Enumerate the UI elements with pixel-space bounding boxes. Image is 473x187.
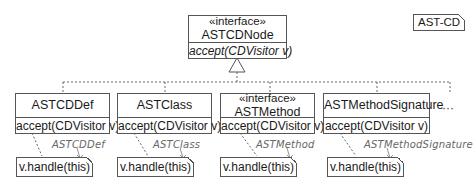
class-astclass[interactable]: ASTClass accept(CDVisitor v) [117,93,212,134]
class-astcdnode[interactable]: «interface» ASTCDNode accept(CDVisitor v… [188,15,287,59]
stereotype-label: «interface» [189,15,286,28]
note-text: v.handle(this) [19,160,90,174]
note-astcddef: v.handle(this) [16,157,93,177]
note-tag: ASTMethod [256,139,315,150]
note-astmethodsignature: v.handle(this) [327,157,404,177]
class-name: ASTMethodSignature [324,98,429,113]
note-astmethod: v.handle(this) [220,157,297,177]
class-astmethodsignature[interactable]: ASTMethodSignature accept(CDVisitor v) [323,93,430,134]
note-tag: ASTMethodSignature [364,139,473,150]
note-astclass: v.handle(this) [117,157,194,177]
note-text: v.handle(this) [120,160,191,174]
diagram-label: AST-CD [413,14,465,31]
class-astmethod[interactable]: «interface» ASTMethod accept(CDVisitor v… [220,93,315,134]
class-astcddef[interactable]: ASTCDDef accept(CDVisitor v) [15,93,110,134]
operation: accept(CDVisitor v) [221,118,314,134]
note-tag: ASTClass [153,139,200,150]
class-name: ASTClass [118,98,211,113]
operation: accept(CDVisitor v) [189,43,286,59]
class-name: ASTCDDef [16,98,109,113]
operation: accept(CDVisitor v) [324,118,429,134]
note-text: v.handle(this) [223,160,294,174]
stereotype-label: «interface» [221,92,314,105]
class-name: ASTCDNode [189,28,286,43]
more-indicator: ··· [442,101,454,115]
diagram-label-text: AST-CD [418,16,460,28]
operation: accept(CDVisitor v) [16,118,109,134]
operation: accept(CDVisitor v) [118,118,211,134]
note-text: v.handle(this) [330,160,401,174]
note-tag: ASTCDDef [52,139,105,150]
